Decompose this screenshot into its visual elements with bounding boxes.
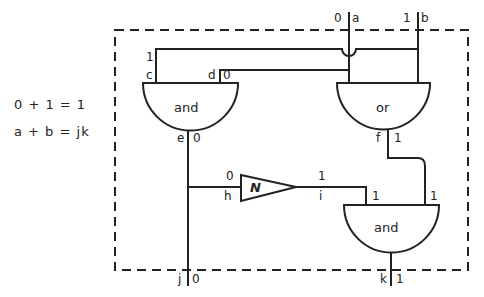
c-value: 1 xyxy=(146,50,154,64)
or-label: or xyxy=(376,100,390,115)
and-bottom-input1-value: 1 xyxy=(372,189,380,203)
i-value: 1 xyxy=(318,169,326,183)
output-j-label: j xyxy=(177,272,181,286)
input-a-label: a xyxy=(352,11,359,25)
input-a-value: 0 xyxy=(334,11,342,25)
not-label: N xyxy=(250,180,261,195)
input-b-label: b xyxy=(421,11,429,25)
i-label: i xyxy=(319,189,322,203)
e-label: e xyxy=(177,131,184,145)
d-label: d xyxy=(208,68,216,82)
output-j-value: 0 xyxy=(192,272,200,286)
wire-i xyxy=(296,187,366,205)
f-value: 1 xyxy=(394,131,402,145)
h-label: h xyxy=(224,189,232,203)
circuit-diagram: and or N and 0 a 1 b 1 c d 0 e 0 f 1 0 h… xyxy=(0,0,484,297)
f-label: f xyxy=(376,131,381,145)
d-value: 0 xyxy=(223,68,231,82)
c-label: c xyxy=(146,68,153,82)
h-value: 0 xyxy=(226,169,234,183)
and-top-label: and xyxy=(174,100,198,115)
output-k-value: 1 xyxy=(396,272,404,286)
and-bottom-input2-value: 1 xyxy=(430,189,438,203)
output-k-label: k xyxy=(380,272,387,286)
e-value: 0 xyxy=(193,131,201,145)
wire-a-to-d xyxy=(220,70,349,83)
input-b-value: 1 xyxy=(403,11,411,25)
wire-b xyxy=(156,12,418,83)
and-bottom-label: and xyxy=(374,220,398,235)
